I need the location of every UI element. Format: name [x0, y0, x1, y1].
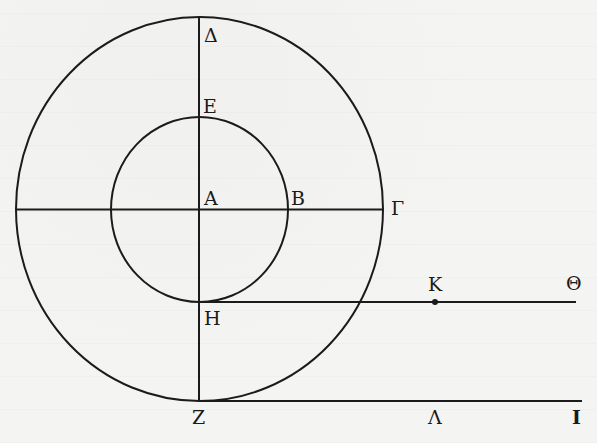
label-delta: Δ	[204, 24, 218, 46]
diagram-page: Δ E A B Γ H Z K Θ Λ I	[0, 0, 597, 443]
label-beta: B	[291, 187, 305, 209]
label-kappa: K	[428, 273, 443, 295]
label-iota: I	[572, 406, 581, 428]
label-alpha: A	[203, 187, 218, 209]
label-lambda: Λ	[427, 406, 442, 428]
geometry-figure: Δ E A B Γ H Z K Θ Λ I	[0, 0, 597, 443]
point-k-dot	[432, 299, 438, 305]
label-zeta: Z	[192, 406, 205, 428]
label-eta: H	[204, 307, 221, 329]
label-gamma: Γ	[391, 197, 404, 219]
label-epsilon: E	[203, 95, 217, 117]
label-theta: Θ	[566, 272, 582, 294]
